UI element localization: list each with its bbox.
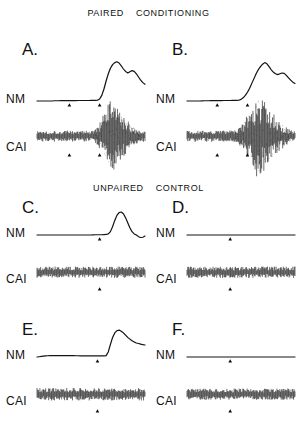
heading-word: Control (156, 179, 204, 194)
ca1-trace-svg (187, 254, 295, 292)
nm-trace-c (37, 200, 145, 244)
nm-waveform (37, 62, 145, 101)
section-heading-paired: PairedConditioning (0, 4, 297, 19)
stimulus-marker-icon (98, 103, 102, 106)
nm-trace-b (187, 54, 295, 110)
stimulus-marker-icon (96, 359, 100, 362)
ca1-trace-svg (187, 116, 295, 158)
stimulus-marker-icon (246, 103, 250, 106)
ca1-trace-f (187, 376, 295, 414)
nm-trace-svg (37, 322, 145, 366)
ca1-multiunit-activity (37, 388, 145, 401)
panel-c: C. NM CAI (0, 196, 148, 314)
nm-label: NM (6, 348, 25, 362)
stimulus-marker-icon (96, 409, 100, 412)
ca1-label: CAI (6, 394, 27, 408)
nm-trace-svg (37, 54, 145, 110)
ca1-label: CAI (6, 272, 27, 286)
ca1-trace-e (37, 376, 145, 414)
panel-b: B. NM CAI (150, 40, 297, 158)
stimulus-marker-icon (228, 359, 232, 362)
ca1-trace-a (37, 116, 145, 158)
nm-trace-d (187, 200, 295, 244)
ca1-multiunit-activity (37, 267, 145, 278)
ca1-trace-b (187, 116, 295, 158)
stimulus-marker-icon (246, 153, 250, 156)
nm-trace-svg (37, 200, 145, 244)
stimulus-marker-icon (215, 153, 219, 156)
ca1-label: CAI (6, 140, 27, 154)
nm-label: NM (156, 348, 175, 362)
stimulus-marker-icon (98, 287, 102, 290)
nm-trace-svg (187, 322, 295, 366)
panel-a: A. NM CAI (0, 40, 148, 158)
heading-word: Conditioning (136, 4, 210, 19)
stimulus-marker-icon (215, 103, 219, 106)
ca1-multiunit-activity (187, 100, 295, 176)
ca1-multiunit-activity (187, 389, 295, 400)
nm-waveform (187, 63, 295, 101)
ca1-trace-svg (37, 376, 145, 414)
ca1-trace-d (187, 254, 295, 292)
nm-trace-e (37, 322, 145, 366)
nm-waveform (37, 330, 145, 357)
nm-label: NM (6, 92, 25, 106)
figure-root: PairedConditioning UnpairedControl A. NM… (0, 0, 297, 426)
stimulus-marker-icon (68, 103, 72, 106)
nm-label: NM (156, 92, 175, 106)
ca1-label: CAI (156, 140, 177, 154)
ca1-multiunit-activity (187, 267, 295, 278)
nm-waveform (37, 212, 145, 237)
nm-trace-svg (187, 54, 295, 110)
ca1-label: CAI (156, 394, 177, 408)
panel-letter: F. (172, 320, 185, 340)
nm-trace-f (187, 322, 295, 366)
stimulus-marker-icon (98, 153, 102, 156)
panel-letter: E. (22, 320, 38, 340)
nm-trace-a (37, 54, 145, 110)
ca1-label: CAI (156, 272, 177, 286)
heading-word: Unpaired (93, 179, 144, 194)
ca1-trace-svg (187, 376, 295, 414)
ca1-trace-svg (37, 116, 145, 158)
section-heading-unpaired: UnpairedControl (0, 179, 297, 194)
panel-letter: B. (172, 40, 188, 60)
heading-word: Paired (87, 4, 123, 19)
panel-letter: A. (22, 40, 38, 60)
stimulus-marker-icon (98, 237, 102, 240)
stimulus-marker-icon (228, 409, 232, 412)
nm-label: NM (156, 226, 175, 240)
panel-d: D. NM CAI (150, 196, 297, 314)
panel-f: F. NM CAI (150, 318, 297, 426)
stimulus-marker-icon (228, 237, 232, 240)
nm-trace-svg (187, 200, 295, 244)
ca1-trace-svg (37, 254, 145, 292)
stimulus-marker-icon (228, 287, 232, 290)
stimulus-marker-icon (68, 153, 72, 156)
nm-label: NM (6, 226, 25, 240)
ca1-trace-c (37, 254, 145, 292)
panel-e: E. NM CAI (0, 318, 148, 426)
ca1-multiunit-activity (37, 101, 145, 169)
